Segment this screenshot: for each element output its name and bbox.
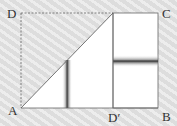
label-d: D [7, 7, 16, 20]
label-d-prime: D′ [108, 111, 120, 124]
label-b: B [162, 110, 171, 123]
label-c: C [162, 7, 171, 20]
label-a: A [8, 104, 17, 117]
fold-diagram [0, 0, 177, 126]
